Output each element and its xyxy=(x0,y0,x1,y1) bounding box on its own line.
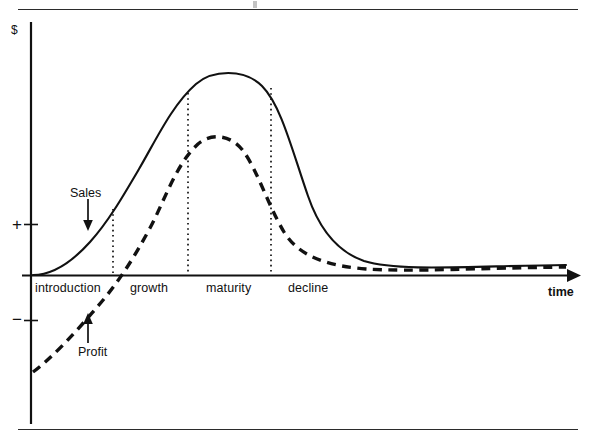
stage-label-introduction: introduction xyxy=(35,281,101,295)
product-life-cycle-plot xyxy=(0,0,589,441)
stage-label-maturity: maturity xyxy=(206,281,251,295)
series-label-sales: Sales xyxy=(70,186,101,200)
x-axis-arrowhead xyxy=(567,269,581,282)
sales-annotation-arrowhead xyxy=(83,220,93,231)
sales-curve xyxy=(33,73,566,275)
stage-label-decline: decline xyxy=(288,281,328,295)
stage-label-growth: growth xyxy=(130,281,168,295)
y-axis-tick-label-negative: − xyxy=(12,311,22,328)
series-label-profit: Profit xyxy=(78,345,107,359)
y-axis-tick-label-positive: + xyxy=(12,216,22,233)
figure-canvas: $ time + − introduction growth maturity … xyxy=(0,0,589,441)
y-axis-label: $ xyxy=(11,24,18,36)
x-axis-label: time xyxy=(548,286,574,299)
